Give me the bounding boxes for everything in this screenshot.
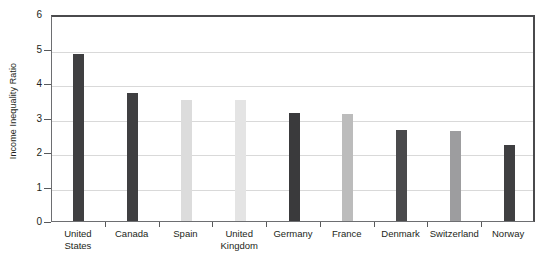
bar: [396, 130, 407, 221]
x-axis-tick-mark: [374, 222, 375, 227]
bar: [342, 114, 353, 221]
income-inequality-bar-chart: Income Inequality Ratio 0123456 UnitedSt…: [0, 0, 542, 262]
y-axis-tick-label: 5: [22, 45, 42, 55]
bar: [450, 131, 461, 221]
x-axis-tick-mark: [266, 222, 267, 227]
x-axis-tick-marks: [51, 222, 535, 227]
bar: [235, 100, 246, 221]
x-axis-tick-mark: [427, 222, 428, 227]
y-axis-title: Income Inequality Ratio: [6, 0, 20, 222]
x-axis-category-label: Norway: [475, 228, 541, 240]
y-axis-tick-mark: [44, 188, 51, 189]
y-axis-tick-mark: [44, 84, 51, 85]
bar: [127, 93, 138, 221]
x-axis-tick-mark: [481, 222, 482, 227]
x-axis-tick-mark: [320, 222, 321, 227]
y-axis-tick-label: 6: [22, 10, 42, 20]
y-axis-tick-labels: 0123456: [22, 0, 42, 262]
y-axis-tick-label: 2: [22, 148, 42, 158]
plot-area: [51, 15, 535, 222]
bar: [73, 54, 84, 221]
y-axis-tick-mark: [44, 222, 51, 223]
y-axis-tick-mark: [44, 153, 51, 154]
y-axis-tick-label: 0: [22, 217, 42, 227]
bar: [181, 100, 192, 221]
y-axis-tick-label: 3: [22, 114, 42, 124]
y-axis-tick-label: 4: [22, 79, 42, 89]
bars-layer: [52, 17, 533, 221]
x-axis-tick-mark: [105, 222, 106, 227]
x-axis-tick-mark: [159, 222, 160, 227]
bar: [504, 145, 515, 221]
y-axis-tick-mark: [44, 50, 51, 51]
bar: [289, 113, 300, 221]
x-axis-tick-mark: [212, 222, 213, 227]
y-axis-tick-mark: [44, 119, 51, 120]
x-axis-category-labels: UnitedStatesCanadaSpainUnitedKingdomGerm…: [51, 228, 535, 262]
y-axis-tick-label: 1: [22, 183, 42, 193]
